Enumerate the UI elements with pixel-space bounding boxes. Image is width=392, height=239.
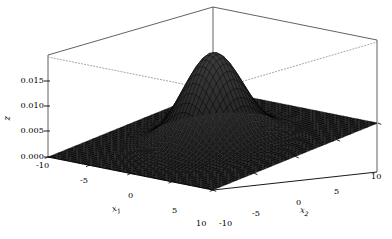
z-tick-label-0000: 0.000 [6, 152, 44, 160]
x2-tick-label-10: 10 [371, 172, 381, 180]
x1-tick-label-neg5: -5 [80, 176, 88, 184]
z-axis-title: z [3, 110, 11, 126]
x2-axis-title: x2 [299, 205, 309, 217]
x2-tick-label-neg10: -10 [219, 219, 232, 227]
z-tick-label-0005: 0.005 [6, 126, 44, 134]
z-tick-label-0010: 0.010 [6, 101, 44, 109]
surface-plot-svg [0, 0, 392, 239]
x2-tick-label-neg5: -5 [252, 209, 260, 217]
x1-tick-label-10: 10 [196, 219, 206, 227]
z-tick-label-0015: 0.015 [6, 76, 44, 84]
figure-canvas: 0.015 0.010 0.005 0.000 z -10 -5 0 5 10 … [0, 0, 392, 239]
x1-tick-label-neg10: -10 [36, 161, 49, 169]
x1-tick-label-0: 0 [128, 191, 133, 199]
x2-tick-label-5: 5 [334, 187, 339, 195]
x1-tick-label-5: 5 [172, 206, 177, 214]
